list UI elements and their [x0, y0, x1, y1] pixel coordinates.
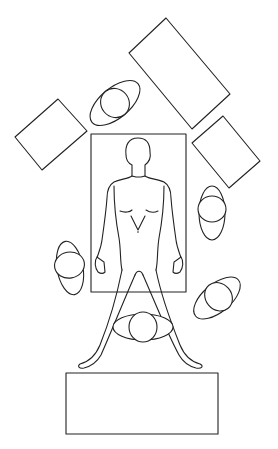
staff-top-left: [82, 72, 147, 134]
instrument-table-bottom: [66, 373, 218, 434]
or-layout-diagram: [0, 0, 278, 449]
staff-right-upper: [198, 186, 226, 240]
instrument-table-top-right: [129, 18, 230, 129]
instrument-table-left: [15, 99, 87, 170]
staff-left: [51, 239, 90, 297]
staff-bottom-center: [113, 312, 173, 342]
staff-right-lower: [186, 269, 248, 328]
instrument-table-right: [192, 116, 260, 188]
